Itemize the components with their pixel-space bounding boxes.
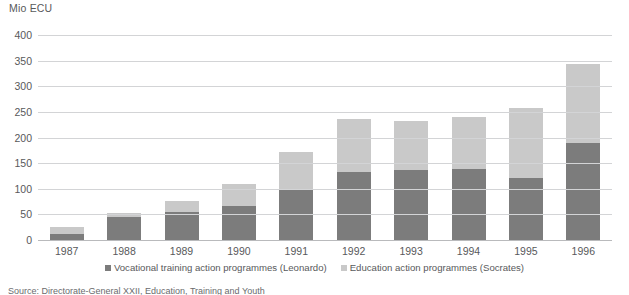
x-axis-tick-label: 1989 [153, 245, 210, 257]
legend-label: Vocational training action programmes (L… [114, 262, 327, 273]
bar-stack [107, 213, 141, 240]
bar-segment-vocational [509, 178, 543, 240]
bar-stack [222, 184, 256, 240]
y-axis-tick-label: 300 [4, 80, 32, 92]
x-axis-tick-label: 1995 [497, 245, 554, 257]
bar-segment-education [279, 152, 313, 190]
y-axis-tick-label: 200 [4, 132, 32, 144]
gridline [38, 86, 612, 87]
legend-swatch-edu-icon [341, 265, 347, 271]
bar-segment-education [222, 184, 256, 207]
bar-segment-vocational [394, 170, 428, 240]
bar-stack [509, 108, 543, 240]
bar-segment-education [452, 117, 486, 169]
x-axis-tick-label: 1987 [38, 245, 95, 257]
x-axis-tick-label: 1990 [210, 245, 267, 257]
bar-segment-vocational [107, 217, 141, 240]
gridline [38, 214, 612, 215]
y-axis-tick-label: 50 [4, 208, 32, 220]
legend-label: Education action programmes (Socrates) [350, 262, 524, 273]
gridline [38, 189, 612, 190]
bar-stack [50, 227, 84, 240]
x-axis-tick-label: 1996 [555, 245, 612, 257]
gridline [38, 138, 612, 139]
gridline [38, 163, 612, 164]
x-axis-tick-label: 1992 [325, 245, 382, 257]
y-axis-tick-label: 400 [4, 29, 32, 41]
y-axis-tick-label: 100 [4, 183, 32, 195]
x-axis-tick-label: 1988 [95, 245, 152, 257]
y-axis-tick-label: 250 [4, 106, 32, 118]
y-axis-tick-label: 150 [4, 157, 32, 169]
bar-segment-education [509, 108, 543, 178]
y-axis-tick-label: 350 [4, 55, 32, 67]
bar-stack [452, 117, 486, 240]
bar-segment-vocational [452, 169, 486, 240]
bar-segment-vocational [566, 143, 600, 240]
gridline [38, 35, 612, 36]
bar-stack [165, 201, 199, 240]
bar-stack [337, 119, 371, 240]
y-axis-unit-label: Mio ECU [9, 2, 52, 14]
chart-legend: Vocational training action programmes (L… [0, 262, 629, 273]
x-axis-tick-label: 1994 [440, 245, 497, 257]
legend-swatch-voc-icon [105, 265, 111, 271]
bar-stack [279, 152, 313, 240]
bar-segment-vocational [222, 206, 256, 240]
source-note: Source: Directorate-General XXII, Educat… [8, 286, 265, 295]
bar-segment-education [50, 227, 84, 234]
bar-segment-education [165, 201, 199, 212]
gridline [38, 61, 612, 62]
gridline [38, 240, 612, 241]
legend-item-edu[interactable]: Education action programmes (Socrates) [341, 262, 524, 273]
bar-segment-vocational [337, 172, 371, 240]
legend-item-voc[interactable]: Vocational training action programmes (L… [105, 262, 327, 273]
bar-segment-education [566, 64, 600, 142]
y-axis-tick-label: 0 [4, 234, 32, 246]
chart-container: Mio ECU 050100150200250300350400 1987198… [0, 0, 629, 295]
bar-segment-vocational [165, 212, 199, 240]
bar-segment-vocational [279, 190, 313, 240]
x-axis-tick-label: 1991 [268, 245, 325, 257]
x-axis-tick-label: 1993 [382, 245, 439, 257]
gridline [38, 112, 612, 113]
